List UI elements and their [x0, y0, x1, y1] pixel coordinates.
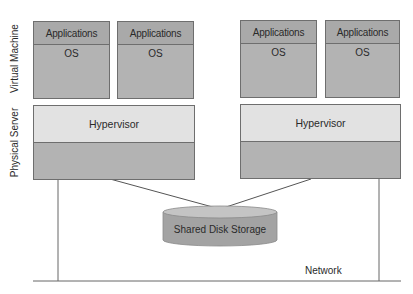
applications-layer: Applications — [241, 21, 316, 44]
os-layer: OS — [326, 44, 399, 58]
applications-layer: Applications — [326, 21, 399, 44]
os-layer: OS — [241, 44, 316, 58]
physical-server-1: Hypervisor — [33, 105, 195, 180]
virtual-machine-4: Applications OS — [325, 20, 400, 98]
applications-layer: Applications — [34, 22, 109, 45]
network-label: Network — [305, 265, 342, 276]
virtual-machine-label: Virtual Machine — [9, 19, 20, 99]
physical-server-2: Hypervisor — [240, 104, 401, 179]
virtual-machine-3: Applications OS — [240, 20, 317, 98]
os-layer: OS — [118, 45, 193, 59]
hypervisor-layer: Hypervisor — [34, 106, 194, 143]
hypervisor-layer: Hypervisor — [241, 105, 400, 142]
applications-layer: Applications — [118, 22, 193, 45]
physical-server-label: Physical Server — [9, 103, 20, 183]
virtual-machine-2: Applications OS — [117, 21, 194, 99]
os-layer: OS — [34, 45, 109, 59]
virtual-machine-1: Applications OS — [33, 21, 110, 99]
shared-disk-storage-label: Shared Disk Storage — [163, 224, 277, 235]
